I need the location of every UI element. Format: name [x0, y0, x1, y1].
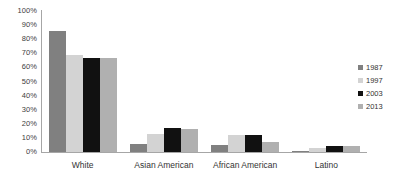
- y-axis-tick-label: 70%: [0, 49, 37, 57]
- bar: [147, 134, 164, 152]
- bar: [262, 142, 279, 152]
- y-axis-tick-label: 60%: [0, 63, 37, 71]
- bar-group-bars: [123, 11, 204, 152]
- y-axis-tick-labels: 100%90%80%70%60%50%40%30%20%10%0%: [0, 0, 37, 183]
- bar: [326, 146, 343, 152]
- x-axis-category-label: White: [42, 160, 123, 170]
- y-axis-tick-label: 10%: [0, 134, 37, 142]
- y-axis-tick-label: 80%: [0, 35, 37, 43]
- y-axis-tick-label: 90%: [0, 21, 37, 29]
- bar: [83, 58, 100, 152]
- bar-group: [205, 11, 286, 152]
- bar-group-bars: [286, 11, 367, 152]
- bar: [100, 58, 117, 152]
- x-axis-category-label: Latino: [286, 160, 367, 170]
- x-axis-category-label: Asian American: [123, 160, 204, 170]
- bar: [49, 31, 66, 152]
- legend-label: 1987: [366, 63, 383, 72]
- bar-group: [42, 11, 123, 152]
- bar-group: [286, 11, 367, 152]
- bar: [309, 148, 326, 152]
- x-axis-line: [41, 152, 367, 153]
- y-axis-tick-label: 30%: [0, 106, 37, 114]
- bar: [66, 55, 83, 152]
- x-axis-category-label: African American: [205, 160, 286, 170]
- bar: [343, 146, 360, 152]
- bar: [130, 144, 147, 152]
- bar: [292, 151, 309, 152]
- bar: [228, 135, 245, 152]
- y-axis-tick-label: 20%: [0, 120, 37, 128]
- y-axis-tick-label: 50%: [0, 78, 37, 86]
- legend-label: 2013: [366, 102, 383, 111]
- bar: [164, 128, 181, 152]
- y-axis-tick-label: 0%: [0, 148, 37, 156]
- y-axis-tick-label: 40%: [0, 92, 37, 100]
- legend-label: 1997: [366, 76, 383, 85]
- bar-chart: 100%90%80%70%60%50%40%30%20%10%0% 198719…: [0, 0, 410, 183]
- bar-group-bars: [42, 11, 123, 152]
- bar: [181, 129, 198, 152]
- bar-group-bars: [205, 11, 286, 152]
- bar-group: [123, 11, 204, 152]
- y-axis-tick-label: 100%: [0, 7, 37, 15]
- legend-label: 2003: [366, 89, 383, 98]
- bar: [245, 135, 262, 152]
- bar: [211, 145, 228, 152]
